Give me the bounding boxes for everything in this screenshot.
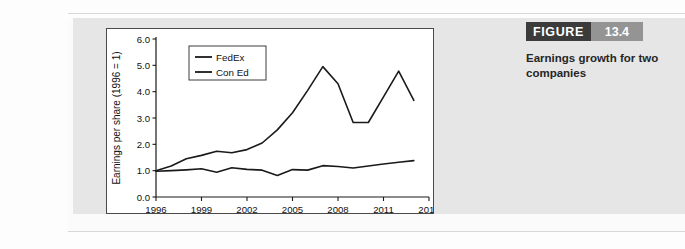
y-tick-label: 2.0 [137,139,150,150]
figure-number-label: 13.4 [591,22,643,41]
y-tick-label: 5.0 [137,60,150,71]
figure-tag: FIGURE 13.4 [526,22,643,41]
x-tick-label: 2005 [282,204,303,214]
band-rule-top [68,13,685,14]
x-tick-label: 1996 [145,204,166,214]
x-tick-label: 2011 [373,204,394,214]
panel-bottom-margin [68,214,685,231]
y-tick-label: 4.0 [137,86,150,97]
x-tick-label: 2014 [418,204,433,214]
series-line-fedex [156,67,414,171]
figure-description: Earnings growth for two companies [526,51,661,81]
legend-label-fedex: FedEx [216,52,244,63]
x-tick-label: 1999 [191,204,212,214]
series-line-con-ed [156,161,414,176]
x-tick-label: 2008 [327,204,348,214]
figure-container: 0.01.02.03.04.05.06.01996199920022005200… [0,0,685,249]
legend-label-con-ed: Con Ed [216,67,249,78]
x-tick-label: 2002 [236,204,257,214]
panel-left-margin [68,18,73,227]
figure-caption-block: FIGURE 13.4 Earnings growth for two comp… [526,22,676,81]
line-chart: 0.01.02.03.04.05.06.01996199920022005200… [107,29,433,213]
y-tick-label: 0.0 [137,192,150,203]
band-rule-bottom [68,231,685,232]
y-tick-label: 6.0 [137,34,150,45]
y-tick-label: 3.0 [137,113,150,124]
figure-word-label: FIGURE [526,22,591,41]
chart-panel: 0.01.02.03.04.05.06.01996199920022005200… [106,28,434,214]
y-tick-label: 1.0 [137,165,150,176]
y-axis-title: Earnings per share (1996 = 1) [111,51,122,184]
